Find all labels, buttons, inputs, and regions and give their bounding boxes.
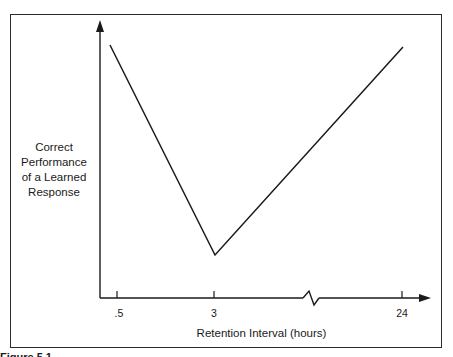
y-axis-label: Correct Performance of a Learned Respons… <box>14 140 94 200</box>
ylabel-line-1: Correct <box>14 140 94 155</box>
ylabel-line-4: Response <box>14 185 94 200</box>
y-axis-arrow-icon <box>96 20 104 32</box>
x-axis-arrow-icon <box>419 294 431 302</box>
tick-label-24: 24 <box>396 307 408 319</box>
figure-caption: Figure 5.1 <box>0 351 52 357</box>
tick-label-3: 3 <box>211 307 217 319</box>
axis-break-icon <box>303 291 319 305</box>
x-axis-label: Retention Interval (hours) <box>0 327 453 339</box>
tick-label-0-5: .5 <box>115 307 124 319</box>
ylabel-line-2: Performance <box>14 155 94 170</box>
performance-line <box>110 45 403 255</box>
ylabel-line-3: of a Learned <box>14 170 94 185</box>
